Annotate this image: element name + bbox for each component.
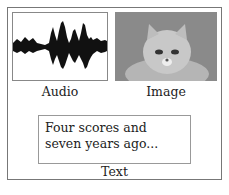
text-sample-box: Four scores and seven years ago...	[38, 115, 191, 164]
cat-photo	[115, 12, 217, 81]
audio-waveform-panel	[12, 12, 108, 81]
audio-label: Audio	[12, 84, 108, 99]
waveform-icon	[13, 13, 107, 80]
image-label: Image	[115, 84, 217, 99]
text-label: Text	[38, 164, 191, 179]
